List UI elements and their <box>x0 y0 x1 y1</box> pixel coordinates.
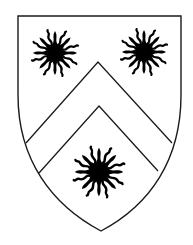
coat-of-arms <box>0 0 193 245</box>
